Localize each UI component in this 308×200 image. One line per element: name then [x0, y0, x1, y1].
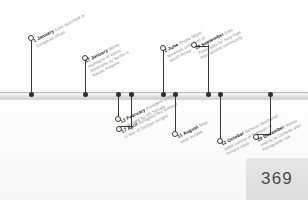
timeline-stem — [220, 97, 221, 139]
timeline-stem — [118, 97, 119, 117]
timeline-stem — [31, 38, 32, 93]
page-number: 369 — [261, 169, 293, 189]
timeline-label-euro-launch: 1 January Euro launched inEuropean Union — [33, 13, 89, 48]
timeline-stem — [163, 48, 164, 93]
timeline-bar — [0, 92, 308, 99]
timeline-label-east-timor-appeal: 20 September EastTimor asks for help fro… — [194, 24, 244, 60]
timeline-page: 1 January Euro launched inEuropean Union… — [0, 0, 308, 200]
timeline-stem — [175, 97, 176, 132]
timeline-label-solar-eclipse: 11 August Totalsolar eclipse — [177, 119, 212, 144]
page-number-box: 369 — [246, 158, 308, 200]
timeline-label-racak-massacre: 17 January Worstmassacre of ethnicAlbani… — [84, 40, 132, 78]
